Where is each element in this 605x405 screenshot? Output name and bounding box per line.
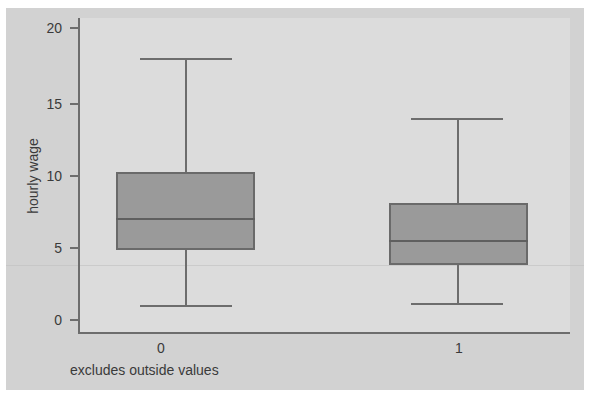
box-0-lower-whisker-cap — [140, 305, 232, 307]
y-tick-mark-20 — [70, 27, 78, 29]
box-0-median-line — [116, 218, 255, 220]
box-1-lower-whisker-line — [457, 265, 459, 303]
box-0-upper-whisker-cap — [140, 58, 232, 60]
y-tick-label-20: 20 — [46, 21, 62, 35]
y-tick-mark-15 — [70, 103, 78, 105]
x-axis-line — [78, 332, 570, 334]
y-tick-mark-5 — [70, 247, 78, 249]
box-0-lower-whisker-line — [185, 250, 187, 305]
y-tick-mark-0 — [70, 319, 78, 321]
box-1-lower-whisker-cap — [411, 303, 503, 305]
box-1-upper-whisker-cap — [411, 118, 503, 120]
box-0-body — [116, 172, 255, 250]
box-0-upper-whisker-line — [185, 58, 187, 172]
x-tick-label-0: 0 — [126, 340, 196, 356]
y-tick-mark-10 — [70, 175, 78, 177]
box-1-upper-whisker-line — [457, 118, 459, 203]
box-1-median-line — [389, 240, 528, 242]
y-tick-label-0: 0 — [54, 313, 62, 327]
box-1-body — [389, 203, 528, 265]
y-tick-label-15: 15 — [46, 97, 62, 111]
y-axis-line — [78, 18, 80, 334]
scan-artifact-line — [6, 265, 584, 266]
chart-footnote: excludes outside values — [70, 362, 219, 378]
y-axis-title: hourly wage — [25, 121, 41, 231]
boxplot-figure: hourly wage 20 15 10 5 0 0 1 excludes ou… — [0, 0, 605, 405]
y-tick-label-5: 5 — [54, 241, 62, 255]
y-tick-label-10: 10 — [46, 169, 62, 183]
x-tick-label-1: 1 — [424, 340, 494, 356]
